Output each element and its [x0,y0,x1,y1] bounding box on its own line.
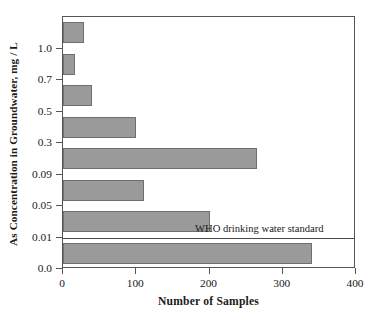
y-axis-tick-label: 1.0 [38,42,52,54]
x-axis-tick-label: 200 [200,277,217,289]
chart-container: As Concentration in Groundwater, mg / L … [0,0,370,321]
y-axis-tick-label: 0.7 [38,73,52,85]
x-axis-tick-mark [355,268,356,274]
bar [63,148,257,169]
y-axis-tick-mark [56,142,63,143]
bar-band [63,175,354,207]
y-axis-tick-mark [56,111,63,112]
bar-band [63,143,354,175]
y-axis-tick-label: 0.09 [32,168,52,180]
x-axis-tick-mark [209,268,210,274]
bar-band [63,49,354,81]
y-axis-tick-mark [56,48,63,49]
x-axis-tick-label: 400 [346,277,363,289]
bar-band [63,112,354,144]
y-axis-tick-mark [56,79,63,80]
y-axis-tick-label: 0.3 [38,136,52,148]
x-axis-tick-mark [135,268,136,274]
x-axis-tick-mark [62,268,63,274]
who-standard-line [63,238,354,239]
x-axis-title: Number of Samples [62,295,355,308]
bar-band [63,17,354,49]
bar [63,117,136,138]
x-axis-tick-label: 100 [127,277,144,289]
y-axis-tick-label: 0.0 [38,262,52,274]
bar [63,22,84,43]
y-axis-tick-label: 0.5 [38,105,52,117]
y-axis-title: As Concentration in Groundwater, mg / L [7,13,19,275]
x-axis-tick-mark [282,268,283,274]
y-axis-tick-label: 0.05 [32,199,52,211]
y-axis-tick-mark [56,174,63,175]
bar [63,54,75,75]
bar [63,85,92,106]
x-axis-tick-label: 300 [273,277,290,289]
y-axis-tick-mark [56,237,63,238]
bar [63,211,210,232]
y-axis-tick-label: 0.01 [32,231,52,243]
bar-band [63,80,354,112]
x-axis-tick-label: 0 [59,277,65,289]
bar [63,180,144,201]
bar [63,243,312,264]
who-standard-label: WHO drinking water standard [195,223,324,234]
bar-band [63,238,354,270]
y-axis-tick-mark [56,205,63,206]
